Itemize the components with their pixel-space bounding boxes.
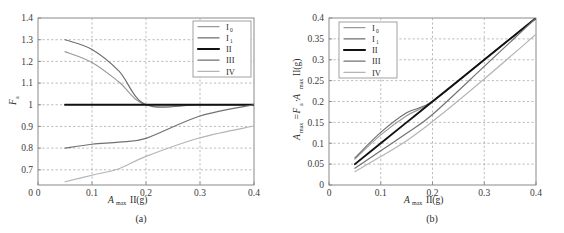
svg-text:II(g): II(g) [426, 195, 443, 206]
y-tick-label: 0.2 [312, 97, 324, 107]
legend-label-subscript: 1 [376, 39, 379, 45]
x-axis-title-b: A max II(g) [403, 195, 443, 206]
y-tick-label: 1.1 [21, 78, 33, 88]
chart-a-svg: 00.10.20.30.4 0.70.80.911.11.21.31.40 A … [0, 0, 282, 233]
legend-label-text: I [226, 33, 229, 43]
svg-text:max: max [298, 79, 304, 89]
legend-b: I0I1IIIIIIV [339, 22, 397, 78]
svg-text:a: a [298, 103, 304, 106]
svg-text:max: max [116, 200, 126, 206]
y-tick-labels-b: 00.050.10.150.20.250.30.350.4 [307, 13, 324, 190]
chart-b-svg: 00.10.20.30.4 00.050.10.150.20.250.30.35… [282, 0, 564, 233]
svg-text:A: A [403, 195, 410, 205]
caption-b: (b) [426, 213, 438, 225]
svg-text:A: A [292, 134, 302, 141]
panel-a: 00.10.20.30.4 0.70.80.911.11.21.31.40 A … [0, 0, 282, 233]
y-tick-label: 0.7 [21, 165, 33, 175]
svg-text:F: F [8, 99, 18, 106]
legend-label-text: IV [226, 67, 236, 77]
x-tick-label: 0.3 [194, 188, 206, 198]
y-tick-label: 0.8 [21, 143, 33, 153]
y-tick-label: 0.4 [312, 13, 324, 23]
x-tick-label: 0 [327, 188, 332, 198]
y-tick-labels-a: 0.70.80.911.11.21.31.40 [21, 13, 33, 198]
caption-a: (a) [135, 213, 146, 225]
svg-text:a: a [14, 96, 20, 99]
x-tick-label: 0.4 [530, 188, 542, 198]
panel-b: 00.10.20.30.4 00.050.10.150.20.250.30.35… [282, 0, 564, 233]
x-tick-labels-a: 00.10.20.30.4 [36, 188, 261, 198]
y-tick-label: 0.35 [307, 34, 324, 44]
legend-label-text: IV [372, 68, 382, 78]
y-tick-label: 0.3 [312, 55, 324, 65]
x-tick-label: 0.4 [248, 188, 260, 198]
figure-container: 00.10.20.30.4 0.70.80.911.11.21.31.40 A … [0, 0, 564, 233]
y-tick-label: 1.3 [21, 35, 33, 45]
legend-label-text: III [372, 56, 381, 66]
svg-text:II(g): II(g) [130, 195, 147, 206]
y-tick-label: 1.2 [21, 57, 33, 67]
svg-text:max: max [298, 123, 304, 133]
y-tick-label: 0.05 [307, 159, 324, 169]
y-tick-label: 0.9 [21, 122, 33, 132]
svg-text:=F: =F [292, 108, 302, 120]
y-tick-label: 0.25 [307, 76, 324, 86]
y-tick-label: 1.4 [21, 13, 33, 23]
legend-label-text: I [372, 34, 375, 44]
legend-label-text: III [226, 55, 235, 65]
y-tick-label: 0.1 [312, 139, 324, 149]
y-tick-label: 0 [319, 180, 324, 190]
y-origin-label: 0 [28, 188, 33, 198]
x-tick-label: 0.3 [478, 188, 490, 198]
svg-text:max: max [412, 200, 422, 206]
y-axis-title-b: A max =F a ·A max II(g) [292, 59, 304, 141]
y-tick-label: 1 [28, 100, 33, 110]
legend-label-subscript: 0 [230, 27, 233, 33]
legend-label-subscript: 0 [376, 28, 379, 34]
x-axis-title-a: A max II(g) [107, 195, 147, 206]
legend-a: I0I1IIIIIIV [193, 21, 251, 77]
legend-label-text: I [226, 22, 229, 32]
legend-label-subscript: 1 [230, 38, 233, 44]
y-tick-label: 0.15 [307, 118, 324, 128]
legend-label-text: II [226, 44, 232, 54]
svg-text:II(g): II(g) [292, 59, 303, 76]
legend-label-text: II [372, 45, 378, 55]
svg-text:·A: ·A [292, 94, 302, 102]
y-axis-title-a: F a [8, 96, 20, 106]
svg-text:A: A [107, 195, 114, 205]
x-tick-label: 0.1 [86, 188, 98, 198]
x-tick-label: 0 [36, 188, 41, 198]
x-tick-label: 0.1 [375, 188, 387, 198]
legend-label-text: I [372, 23, 375, 33]
